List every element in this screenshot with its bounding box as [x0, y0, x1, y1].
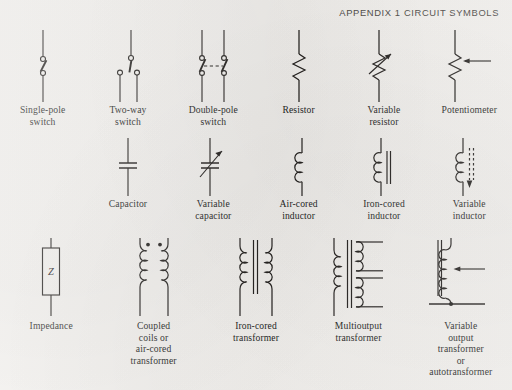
symbol-caption: Multioutput transformer: [335, 320, 382, 343]
coupled-coils-icon: [131, 238, 177, 316]
two-way-switch-icon: [106, 30, 150, 102]
symbol-variable-capacitor: Variable capacitor: [171, 138, 256, 238]
variable-output-transformer-icon: [429, 238, 493, 316]
symbol-resistor: Resistor: [256, 30, 341, 138]
potentiometer-icon: [441, 30, 497, 102]
variable-resistor-icon: [364, 30, 404, 102]
symbol-caption: Variable capacitor: [195, 198, 231, 221]
symbol-caption: Two-way switch: [110, 104, 147, 127]
symbol-row-1: Single-pole switch Two-way switch: [0, 30, 512, 138]
capacitor-icon: [111, 138, 145, 196]
page-header: APPENDIX 1 CIRCUIT SYMBOLS: [339, 7, 499, 18]
symbol-multioutput-transformer: Multioutput transformer: [307, 238, 409, 378]
symbol-variable-resistor: Variable resistor: [341, 30, 426, 138]
symbol-caption: Variable output transformer or autotrans…: [429, 320, 492, 378]
symbol-double-pole-switch: Double-pole switch: [171, 30, 256, 138]
symbol-variable-inductor: Variable inductor: [427, 138, 512, 238]
multioutput-transformer-icon: [327, 238, 389, 316]
symbol-row-2: Capacitor Variable capacitor: [0, 138, 512, 238]
impedance-label: Z: [48, 266, 54, 277]
junction-dot: [449, 302, 453, 306]
symbol-caption: Variable inductor: [453, 198, 486, 221]
air-cored-inductor-icon: [283, 138, 315, 196]
polarity-dot-secondary: [158, 243, 162, 247]
symbol-caption: Double-pole switch: [189, 104, 238, 127]
single-pole-switch-icon: [23, 30, 63, 102]
symbol-coupled-coils-air-cored-transformer: Coupled coils or air-cored transformer: [102, 238, 204, 378]
symbol-caption: Resistor: [282, 104, 314, 116]
symbol-caption: Variable resistor: [368, 104, 401, 127]
polarity-dot-primary: [146, 243, 150, 247]
double-pole-switch-icon: [190, 30, 236, 102]
symbol-caption: Potentiometer: [442, 104, 497, 116]
iron-cored-transformer-icon: [231, 238, 281, 316]
row2-left-spacer: [0, 138, 85, 238]
symbol-caption: Iron-cored inductor: [363, 198, 405, 221]
symbol-caption: Impedance: [30, 320, 73, 332]
iron-cored-inductor-icon: [366, 138, 402, 196]
resistor-icon: [282, 30, 316, 102]
symbol-caption: Coupled coils or air-cored transformer: [131, 320, 177, 366]
symbol-two-way-switch: Two-way switch: [85, 30, 170, 138]
symbol-single-pole-switch: Single-pole switch: [0, 30, 85, 138]
variable-inductor-icon: [450, 138, 488, 196]
symbol-chart: Single-pole switch Two-way switch: [0, 30, 512, 378]
impedance-icon: Z: [31, 238, 71, 316]
symbol-caption: Iron-cored transformer: [233, 320, 279, 343]
symbol-row-3: Z Impedance: [0, 238, 512, 378]
symbol-impedance: Z Impedance: [0, 238, 102, 378]
symbol-potentiometer: Potentiometer: [427, 30, 512, 138]
symbol-caption: Capacitor: [109, 198, 147, 210]
symbol-air-cored-inductor: Air-cored inductor: [256, 138, 341, 238]
symbol-iron-cored-transformer: Iron-cored transformer: [205, 238, 307, 378]
symbol-capacitor: Capacitor: [85, 138, 170, 238]
variable-capacitor-icon: [193, 138, 233, 196]
symbol-caption: Air-cored inductor: [280, 198, 318, 221]
symbol-variable-output-transformer: Variable output transformer or autotrans…: [410, 238, 512, 378]
symbol-caption: Single-pole switch: [20, 104, 66, 127]
symbol-iron-cored-inductor: Iron-cored inductor: [341, 138, 426, 238]
